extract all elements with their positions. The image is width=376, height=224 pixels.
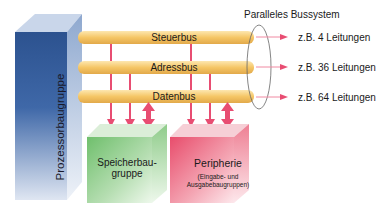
bus-label-steuerbus: Steuerbus <box>124 32 224 43</box>
bus-label-adressbus: Adressbus <box>124 62 224 73</box>
peripheral-sublabel-line1: (Eingabe- und <box>173 173 263 181</box>
line-count-adressbus: z.B. 36 Leitungen <box>298 62 376 73</box>
memory-label-line2: gruppe <box>87 168 167 179</box>
line-count-datenbus: z.B. 64 Leitungen <box>298 92 376 103</box>
diagram-title: Paralleles Bussystem <box>244 9 340 20</box>
peripheral-label: Peripherie <box>178 157 258 169</box>
peripheral-sublabel-line2: Ausgabebaugruppen) <box>173 181 263 189</box>
line-count-arrows <box>256 34 288 100</box>
memory-label: Speicherbau- gruppe <box>87 157 167 179</box>
bus-connectors <box>111 44 210 120</box>
memory-label-line1: Speicherbau- <box>87 157 167 168</box>
processor-block <box>15 14 82 200</box>
line-count-steuerbus: z.B. 4 Leitungen <box>298 32 370 43</box>
bus-label-datenbus: Datenbus <box>124 91 224 102</box>
peripheral-sublabel: (Eingabe- und Ausgabebaugruppen) <box>173 173 263 189</box>
processor-label: Prozessorbaugruppe <box>54 57 66 197</box>
